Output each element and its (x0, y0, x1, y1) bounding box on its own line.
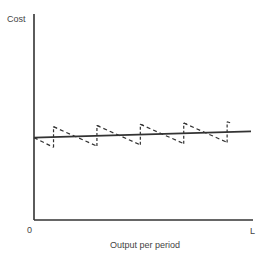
x-tick-origin: 0 (27, 225, 32, 235)
cost-chart: Cost 0 L Output per period (0, 0, 269, 259)
sawtooth-peak-5 (227, 122, 230, 123)
x-tick-L: L (250, 226, 255, 236)
y-axis-label: Cost (7, 14, 26, 24)
x-axis-label: Output per period (110, 240, 180, 250)
sawtooth-lead-segment (34, 138, 54, 148)
